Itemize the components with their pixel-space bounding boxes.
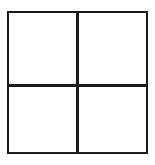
quadrant-top-right xyxy=(79,14,145,84)
quadrant-bottom-left xyxy=(10,87,76,151)
quadrant-top-left xyxy=(10,14,76,84)
figure-canvas xyxy=(0,0,155,165)
quadrant-bottom-right xyxy=(79,87,145,151)
